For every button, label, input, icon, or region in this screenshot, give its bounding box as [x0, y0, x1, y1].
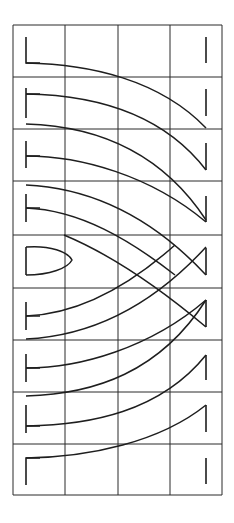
curve-path — [26, 245, 175, 316]
left-marker-t — [26, 88, 40, 118]
curve-path — [26, 156, 206, 222]
curve-path — [26, 208, 175, 275]
left-marker-t — [26, 405, 40, 433]
left-marker-l — [26, 37, 40, 63]
curve-path — [64, 235, 206, 327]
braid-diagram — [0, 0, 234, 523]
left-marker-l — [26, 458, 40, 485]
left-markers — [26, 37, 40, 485]
left-marker-t — [26, 141, 40, 168]
curves — [26, 63, 206, 458]
curve-path — [26, 355, 206, 426]
